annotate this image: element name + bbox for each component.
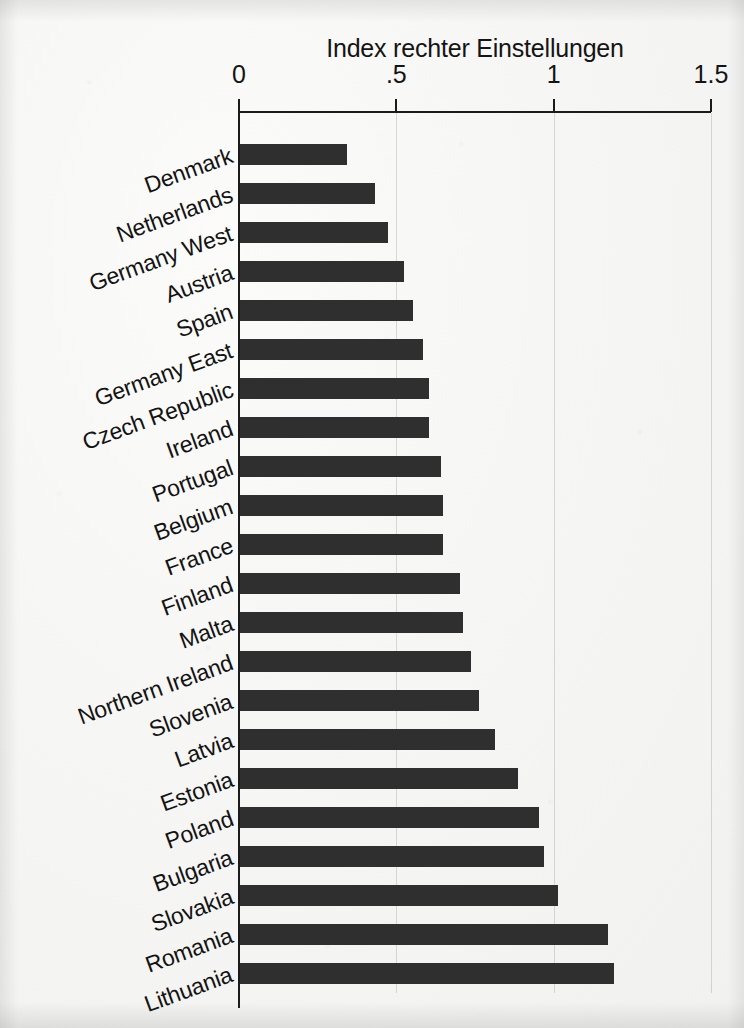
bar [240, 573, 460, 594]
category-label-text: Bulgaria [150, 844, 237, 898]
category-label-text: Northern Ireland [74, 649, 236, 730]
category-label-text: Romania [142, 922, 236, 978]
chart-title: Index rechter Einstellungen [239, 34, 711, 63]
category-label-text: Slovakia [147, 883, 236, 938]
category-label-text: Ireland [163, 415, 237, 464]
category-label-text: Malta [175, 610, 236, 654]
category-label-text: Portugal [148, 454, 236, 508]
category-label-text: Poland [161, 805, 236, 854]
x-tick-label: 1.5 [694, 60, 729, 89]
category-label-text: Estonia [157, 766, 237, 817]
category-label-text: Spain [173, 298, 237, 343]
bar [240, 612, 463, 633]
bar [240, 846, 544, 867]
bar [240, 144, 347, 165]
category-label-text: Finland [158, 571, 237, 622]
category-label-text: Germany West [86, 220, 237, 297]
bar [240, 339, 423, 360]
bar [240, 729, 495, 750]
bar [240, 924, 608, 945]
category-label-text: Austria [161, 259, 236, 308]
bar [240, 261, 404, 282]
bar [240, 690, 479, 711]
bar-chart: Index rechter Einstellungen 0.511.5 Denm… [0, 0, 744, 1028]
bar [240, 300, 413, 321]
category-label-text: Czech Republic [79, 376, 237, 456]
bar [240, 222, 388, 243]
bar [240, 417, 429, 438]
category-label-text: Netherlands [113, 181, 237, 248]
x-tick-label: 0 [232, 60, 246, 89]
bar [240, 768, 518, 789]
bar [240, 885, 558, 906]
category-label-text: Belgium [151, 493, 237, 546]
category-label-text: Denmark [141, 142, 237, 199]
bar [240, 534, 443, 555]
scanned-page: Index rechter Einstellungen 0.511.5 Denm… [0, 0, 744, 1028]
category-label-text: Latvia [171, 727, 237, 773]
category-label-text: Lithuania [141, 961, 236, 1018]
category-label-text: Slovenia [146, 688, 237, 743]
x-tick-label: 1 [547, 60, 561, 89]
category-label-text: Germany East [91, 337, 236, 412]
bar [240, 651, 471, 672]
bar [240, 963, 614, 984]
plot-area [240, 113, 740, 993]
x-tick-label: .5 [386, 60, 407, 89]
bar [240, 807, 539, 828]
category-label-text: France [161, 532, 236, 581]
bar [240, 495, 443, 516]
bar [240, 183, 375, 204]
bar [240, 456, 441, 477]
bar [240, 378, 429, 399]
